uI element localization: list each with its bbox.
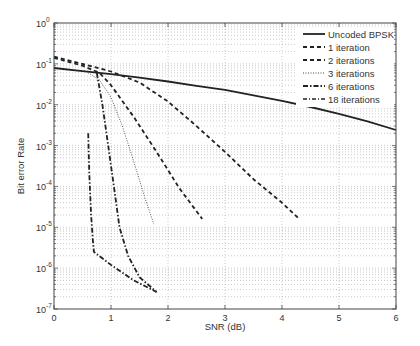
legend-label-2-iterations: 2 iterations [328,55,375,66]
legend-label-3-iterations: 3 iterations [328,68,375,79]
x-tick-label: 2 [165,313,170,323]
legend-label-6-iterations: 6 iterations [328,81,375,92]
x-tick-label: 1 [108,313,113,323]
x-tick-label: 0 [51,313,56,323]
x-tick-label: 4 [279,313,284,323]
curve-3-iterations [88,73,154,224]
legend-label-1-iteration: 1 iteration [328,42,370,53]
y-tick-label: 100 [36,16,50,29]
legend-label-uncoded: Uncoded BPSK [328,29,395,40]
y-axis-label: Bit error Rate [15,138,26,195]
y-tick-label: 10-3 [36,139,52,152]
legend-label-18-iterations: 18 iterations [328,94,380,105]
curve-2-iterations [54,58,202,219]
ber-chart: 10010-110-210-310-410-510-610-7 0123456 … [0,0,420,346]
curve-18-iterations [88,133,156,292]
curve-6-iterations [97,73,157,292]
curve-1-iteration [54,57,299,219]
y-tick-label: 10-2 [36,98,52,111]
y-tick-label: 10-5 [36,220,52,233]
y-tick-label: 10-7 [36,302,52,315]
x-tick-label: 5 [336,313,341,323]
y-tick-label: 10-4 [36,179,52,192]
legend: Uncoded BPSK 1 iteration 2 iterations 3 … [296,27,395,107]
x-axis-label: SNR (dB) [205,321,246,332]
y-tick-label: 10-1 [36,57,52,70]
y-tick-label: 10-6 [36,261,52,274]
y-tick-labels: 10010-110-210-310-410-510-610-7 [36,16,52,315]
x-tick-label: 6 [393,313,398,323]
